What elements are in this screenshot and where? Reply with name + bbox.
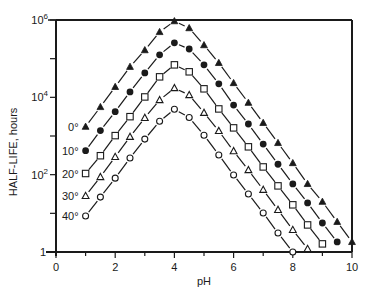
open-square-marker xyxy=(260,164,266,170)
open-square-marker xyxy=(171,62,177,68)
series-dash xyxy=(163,46,170,52)
series-dash xyxy=(340,226,349,238)
series-dash xyxy=(179,45,185,47)
series-dash xyxy=(103,140,112,152)
filled-circle-marker xyxy=(230,102,237,109)
filled-circle-marker xyxy=(215,80,222,87)
series-10deg xyxy=(82,39,340,245)
open-triangle-marker xyxy=(230,147,237,153)
series-dash xyxy=(118,71,127,83)
open-square-marker xyxy=(156,74,162,80)
open-triangle-marker xyxy=(215,127,222,133)
series-dash xyxy=(192,76,200,85)
series-dash xyxy=(222,67,231,79)
open-square-marker xyxy=(127,113,133,119)
open-triangle-marker xyxy=(141,114,148,120)
series-dash xyxy=(192,121,200,131)
open-square-marker xyxy=(82,170,88,176)
y-tick-label: 104 xyxy=(31,89,48,103)
series-label: 40° xyxy=(62,210,79,222)
series-dash xyxy=(89,135,98,147)
series-dash xyxy=(237,179,246,190)
series-label: 30° xyxy=(62,190,79,202)
filled-triangle-marker xyxy=(215,59,222,65)
open-circle-marker xyxy=(231,172,237,178)
y-axis-title: HALF-LIFE, hours xyxy=(7,107,19,196)
filled-triangle-marker xyxy=(201,42,208,48)
open-circle-marker xyxy=(186,114,192,120)
series-dash xyxy=(163,91,170,97)
filled-triangle-marker xyxy=(230,79,237,85)
filled-circle-marker xyxy=(245,121,252,128)
series-dash xyxy=(163,68,170,74)
series-dash xyxy=(207,49,215,59)
open-square-marker xyxy=(290,202,296,208)
open-square-marker xyxy=(142,94,148,100)
series-dash xyxy=(266,127,275,139)
open-circle-marker xyxy=(97,194,103,200)
series-dash xyxy=(311,229,320,240)
series-dash xyxy=(89,201,98,212)
series-dash xyxy=(237,87,246,99)
filled-triangle-marker xyxy=(275,139,282,145)
open-triangle-marker xyxy=(201,109,208,115)
series-dash xyxy=(281,237,290,248)
series-dash xyxy=(296,209,305,221)
series-dash xyxy=(118,96,127,108)
open-square-marker xyxy=(230,125,236,131)
x-axis-title: pH xyxy=(197,275,211,287)
series-label: 20° xyxy=(62,168,79,180)
series-dash xyxy=(164,24,171,29)
open-circle-marker xyxy=(142,136,148,142)
series-dash xyxy=(148,125,156,135)
series-dash xyxy=(251,107,260,119)
series-dash xyxy=(251,128,260,140)
filled-circle-marker xyxy=(186,46,193,53)
filled-triangle-marker xyxy=(304,180,311,186)
series-dash xyxy=(103,91,112,103)
series-dash xyxy=(296,167,305,180)
filled-circle-marker xyxy=(289,181,296,188)
open-circle-marker xyxy=(290,249,296,255)
series-dash xyxy=(193,53,201,62)
series-dash xyxy=(207,93,216,105)
open-triangle-marker xyxy=(289,226,296,232)
series-dash xyxy=(133,101,142,113)
filled-circle-marker xyxy=(304,199,311,206)
series-dash xyxy=(118,162,127,174)
series-dash xyxy=(89,160,97,170)
series-label: 10° xyxy=(62,145,79,157)
filled-circle-marker xyxy=(141,70,148,77)
open-circle-marker xyxy=(157,118,163,124)
series-dash xyxy=(311,188,319,198)
filled-triangle-marker xyxy=(112,83,119,89)
filled-triangle-marker xyxy=(319,198,326,204)
series-dash xyxy=(251,151,260,163)
series-dash xyxy=(148,36,156,46)
x-tick-label: 10 xyxy=(346,261,358,273)
series-dash xyxy=(266,171,275,182)
open-triangle-marker xyxy=(97,173,104,179)
filled-triangle-marker xyxy=(289,159,296,165)
plot-frame xyxy=(46,20,352,256)
series-dash xyxy=(103,161,112,173)
series-dash xyxy=(179,67,185,70)
open-triangle-marker xyxy=(275,206,282,212)
filled-circle-marker xyxy=(171,39,178,46)
series-dash xyxy=(89,111,98,123)
series-dash xyxy=(266,217,275,229)
open-square-marker xyxy=(304,222,310,228)
open-square-marker xyxy=(319,241,325,247)
series-40deg xyxy=(83,106,296,255)
filled-triangle-marker xyxy=(82,123,89,129)
open-circle-marker xyxy=(171,106,177,112)
open-triangle-marker xyxy=(245,166,252,172)
series-dash xyxy=(237,132,246,143)
series-dash xyxy=(207,139,216,151)
series-dash xyxy=(192,32,200,41)
series-dash xyxy=(148,104,156,114)
open-square-marker xyxy=(112,132,118,138)
series-dash xyxy=(133,77,142,88)
series-dash xyxy=(163,112,170,118)
filled-triangle-marker xyxy=(127,63,134,69)
